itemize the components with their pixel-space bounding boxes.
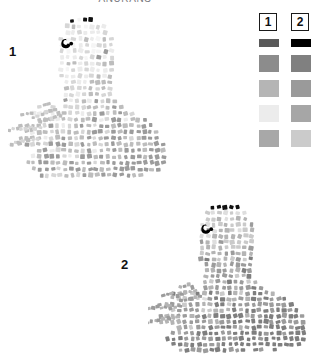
figure-label-2: 2: [121, 257, 128, 272]
legend-swatch-1-2: [259, 55, 279, 72]
legend-swatch-1-3: [259, 80, 279, 97]
legend-column-1: 1: [259, 13, 281, 147]
legend-header-1: 1: [259, 13, 277, 31]
frog-specimen-2: [148, 200, 318, 354]
legend-swatch-1-5: [259, 130, 279, 147]
frog-specimen-1: [8, 12, 178, 198]
figure-plate: ANURANS 1 2 1 2: [0, 0, 318, 354]
page-title: ANURANS: [0, 0, 250, 4]
legend-swatch-2-1: [291, 39, 311, 47]
legend-swatch-2-3: [291, 80, 311, 97]
legend-swatch-1-4: [259, 105, 279, 122]
legend-swatch-1-1: [259, 39, 279, 47]
legend-header-2: 2: [291, 13, 309, 31]
legend-swatch-2-4: [291, 105, 311, 122]
legend-column-2: 2: [291, 13, 313, 147]
legend-swatch-2-2: [291, 55, 311, 72]
legend-swatch-2-5: [291, 130, 311, 147]
figure-label-1: 1: [9, 44, 16, 59]
